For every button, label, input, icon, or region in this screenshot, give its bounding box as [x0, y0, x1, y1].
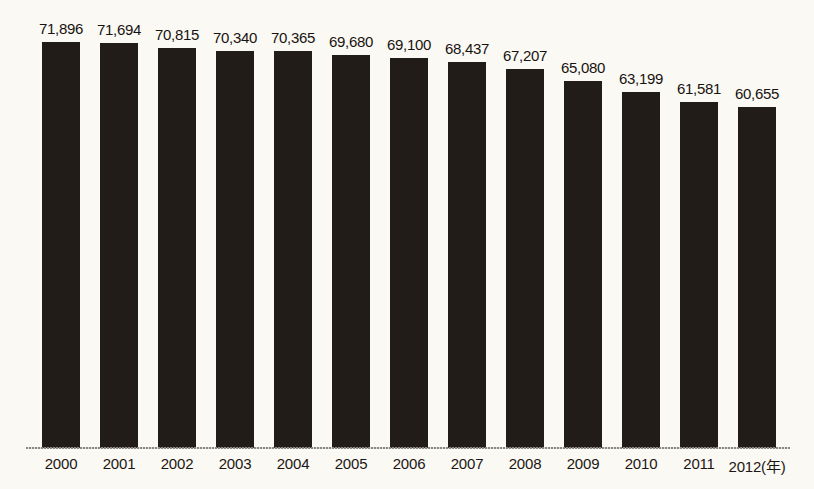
- bar: [390, 58, 428, 448]
- bar-group: 70,365: [274, 51, 312, 448]
- x-tick-label: 2012(年): [712, 455, 802, 476]
- bar: [448, 62, 486, 448]
- bar-value-label: 71,694: [97, 21, 141, 38]
- bar-value-label: 70,365: [271, 29, 315, 46]
- bar: [680, 102, 718, 448]
- bar: [564, 81, 602, 448]
- bar: [216, 51, 254, 448]
- x-axis-tick-labels: 2000200120022003200420052006200720082009…: [0, 455, 814, 485]
- plot-area: 71,89671,69470,81570,34070,36569,68069,1…: [0, 0, 814, 489]
- bar-group: 69,100: [390, 58, 428, 448]
- bar-value-label: 60,655: [735, 85, 779, 102]
- bar: [274, 51, 312, 448]
- bar-value-label: 70,815: [155, 26, 199, 43]
- bar: [622, 92, 660, 448]
- bar-value-label: 69,100: [387, 36, 431, 53]
- bar-value-label: 69,680: [329, 33, 373, 50]
- bar-group: 70,815: [158, 48, 196, 448]
- bar-value-label: 70,340: [213, 29, 257, 46]
- bar-value-label: 61,581: [677, 80, 721, 97]
- bar: [100, 43, 138, 448]
- bar-value-label: 71,896: [39, 20, 83, 37]
- bar-group: 63,199: [622, 92, 660, 448]
- bar-chart: 71,89671,69470,81570,34070,36569,68069,1…: [0, 0, 814, 489]
- bar: [738, 107, 776, 448]
- bar-group: 71,694: [100, 43, 138, 448]
- bar: [332, 55, 370, 448]
- bar: [42, 42, 80, 448]
- bar-value-label: 65,080: [561, 59, 605, 76]
- bar-group: 61,581: [680, 102, 718, 448]
- bar-group: 71,896: [42, 42, 80, 448]
- bar-group: 69,680: [332, 55, 370, 448]
- bar-group: 67,207: [506, 69, 544, 448]
- bar-group: 70,340: [216, 51, 254, 448]
- bar-value-label: 68,437: [445, 40, 489, 57]
- bar: [158, 48, 196, 448]
- bar-group: 60,655: [738, 107, 776, 448]
- bar-value-label: 63,199: [619, 70, 663, 87]
- bar-group: 65,080: [564, 81, 602, 448]
- bar: [506, 69, 544, 448]
- x-axis-baseline: [26, 447, 790, 449]
- bar-group: 68,437: [448, 62, 486, 448]
- bar-value-label: 67,207: [503, 47, 547, 64]
